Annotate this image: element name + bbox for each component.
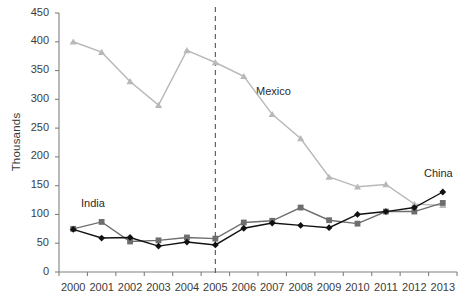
data-point-square	[99, 219, 105, 225]
data-point-square	[440, 200, 446, 206]
data-point-square	[156, 237, 162, 243]
data-point-diamond	[354, 211, 361, 218]
data-point-square	[326, 217, 332, 223]
data-point-diamond	[439, 189, 446, 196]
data-point-triangle	[70, 38, 77, 44]
data-point-diamond	[326, 224, 333, 231]
chart-series-group	[70, 38, 447, 249]
data-point-triangle	[183, 47, 190, 53]
data-point-diamond	[297, 222, 304, 229]
data-point-square	[241, 220, 247, 226]
series-line	[73, 42, 443, 205]
data-point-diamond	[98, 235, 105, 242]
chart-plot-area	[0, 0, 465, 302]
data-point-square	[298, 205, 304, 211]
series-mexico	[70, 38, 447, 208]
data-point-diamond	[240, 225, 247, 232]
data-point-diamond	[212, 242, 219, 249]
data-point-square	[212, 236, 218, 242]
data-point-diamond	[155, 243, 162, 250]
data-point-triangle	[240, 73, 247, 79]
data-point-square	[355, 221, 361, 227]
line-chart: Thousands 050100150200250300350400450 20…	[0, 0, 465, 302]
chart-axes	[55, 13, 457, 276]
series-china	[70, 189, 446, 250]
